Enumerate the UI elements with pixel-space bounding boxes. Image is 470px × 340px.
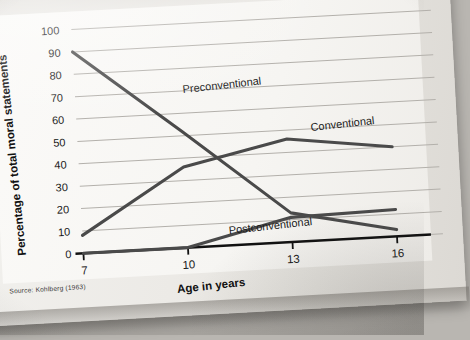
gridline — [71, 10, 430, 29]
x-tick-label: 16 — [391, 247, 404, 260]
paper-page: ts at ages 13 and 16. Source: Kohlberg (… — [0, 0, 467, 327]
y-axis-tick-labels: 0102030405060708090100 — [41, 24, 72, 261]
y-tick-label: 60 — [52, 114, 65, 127]
gridline — [76, 100, 435, 119]
x-tick-label: 7 — [81, 264, 88, 276]
x-tick-label: 10 — [182, 258, 195, 271]
y-tick-label: 70 — [50, 91, 63, 104]
y-tick-label: 10 — [58, 226, 71, 239]
y-tick-label: 30 — [55, 181, 68, 194]
y-tick-label: 20 — [56, 203, 69, 216]
y-tick-label: 90 — [48, 47, 61, 60]
gridlines — [71, 10, 443, 253]
series-label-conventional: Conventional — [310, 114, 375, 133]
series-line-preconventional — [73, 35, 397, 247]
gridline — [80, 167, 439, 186]
y-tick-label: 0 — [65, 248, 72, 260]
data-series-group — [73, 35, 397, 253]
y-tick-label: 100 — [41, 24, 60, 37]
x-axis-title: Age in years — [177, 276, 246, 295]
x-axis — [75, 234, 431, 260]
line-chart: 0102030405060708090100 7101316 Preconven… — [0, 0, 467, 327]
gridline — [73, 32, 432, 51]
y-tick-label: 50 — [53, 136, 66, 149]
y-tick-label: 80 — [49, 69, 62, 82]
y-axis-title: Percentage of total moral statements — [0, 54, 28, 256]
series-label-postconventional: Postconventional — [228, 215, 313, 236]
x-tick-label: 13 — [287, 253, 300, 266]
y-tick-label: 40 — [54, 158, 67, 171]
gridline — [74, 55, 433, 74]
series-label-preconventional: Preconventional — [182, 74, 262, 95]
gridline — [77, 122, 436, 141]
